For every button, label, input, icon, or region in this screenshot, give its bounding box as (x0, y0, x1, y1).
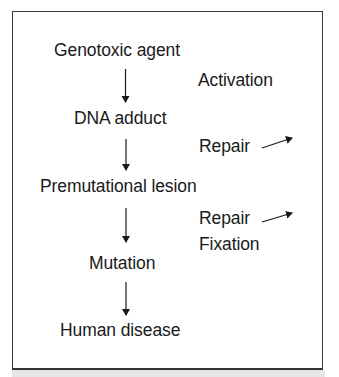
outflow-arrow-icon (262, 213, 292, 222)
arrows-layer (0, 0, 339, 377)
outflow-arrow-icon (262, 138, 292, 148)
